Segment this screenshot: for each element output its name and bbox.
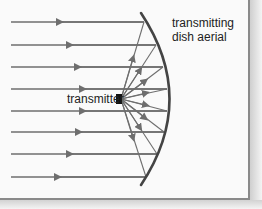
transmitter-label: transmitter	[67, 92, 124, 106]
dish-label-line2: dish aerial	[172, 30, 234, 44]
diagram-frame: transmitting dish aerial transmitter	[0, 0, 262, 209]
dish-reflector	[141, 13, 170, 185]
dish-label-line1: transmitting	[172, 16, 234, 30]
dish-label: transmitting dish aerial	[172, 16, 234, 44]
